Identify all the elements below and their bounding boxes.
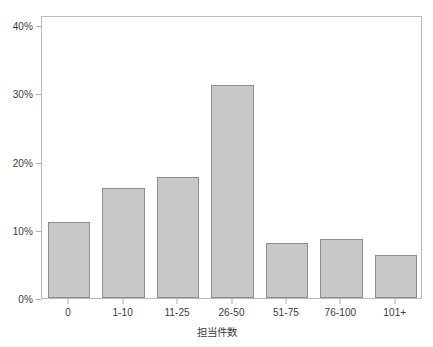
- y-axis-tick-label: 30%: [13, 89, 33, 100]
- bars-container: [42, 17, 421, 298]
- y-axis-tick-label: 0%: [18, 294, 33, 305]
- x-axis-tick-label: 26-50: [218, 307, 244, 318]
- bar: [211, 85, 253, 298]
- x-axis-tick-label: 11-25: [164, 307, 189, 318]
- plot-area: [41, 16, 422, 299]
- y-axis-tick-label: 10%: [13, 225, 33, 236]
- bar: [157, 177, 199, 298]
- bar: [48, 222, 90, 298]
- x-axis-tick-label: 1-10: [112, 307, 132, 318]
- x-axis-tick-mark: [68, 299, 69, 304]
- x-axis-title: 担当件数: [0, 324, 433, 339]
- y-axis-tick-labels: 40%30%20%10%0%: [0, 0, 33, 347]
- bar: [266, 243, 308, 298]
- x-axis-tick-mark: [177, 299, 178, 304]
- x-axis-tick-label: 76-100: [324, 307, 356, 318]
- x-axis-tick-label: 51-75: [273, 307, 299, 318]
- x-axis-tick-mark: [340, 299, 341, 304]
- x-axis-tick-mark: [122, 299, 123, 304]
- x-axis-tick-mark: [285, 299, 286, 304]
- y-axis-tick-label: 40%: [13, 21, 33, 32]
- x-axis-tick-label: 0: [65, 307, 71, 318]
- x-axis-tick-mark: [231, 299, 232, 304]
- y-axis-tick-mark: [36, 299, 41, 300]
- x-axis-tick-mark: [394, 299, 395, 304]
- x-axis-tick-label: 101+: [383, 307, 406, 318]
- bar: [102, 188, 144, 298]
- bar: [320, 239, 362, 298]
- y-axis-tick-label: 20%: [13, 157, 33, 168]
- bar-chart: 40%30%20%10%0% 01-1011-2526-5051-7576-10…: [0, 0, 433, 347]
- bar: [375, 255, 417, 298]
